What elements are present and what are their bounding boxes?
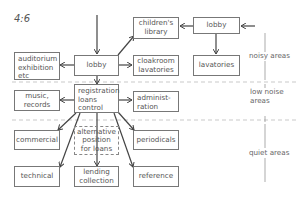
administration-box: administ- ration: [133, 91, 179, 112]
reference-box: reference: [133, 166, 179, 187]
auditorium-box: auditorium exhibition etc: [14, 52, 60, 80]
lobby-main-box: lobby: [74, 55, 119, 76]
noisy-areas-label: noisy areas: [249, 52, 290, 61]
childrens-library-box: children's library: [133, 17, 179, 39]
cloakroom-box: cloakroom lavatories: [133, 55, 179, 76]
music-box: music, records: [14, 90, 60, 111]
low-noise-label-line2: areas: [250, 97, 270, 106]
quiet-areas-label: quiet areas: [249, 149, 289, 158]
periodicals-box: periodicals: [133, 130, 179, 150]
figure-label: 4:6: [14, 13, 30, 24]
registration-box: registration loans control: [74, 84, 119, 113]
alternative-loans-box: alternative position for loans: [74, 126, 119, 155]
lending-box: lending collection: [74, 166, 119, 187]
lavatories-box: lavatories: [193, 55, 240, 76]
lobby-entrance-box: lobby: [193, 17, 240, 34]
commercial-box: commercial: [14, 130, 60, 150]
technical-box: technical: [14, 166, 60, 187]
